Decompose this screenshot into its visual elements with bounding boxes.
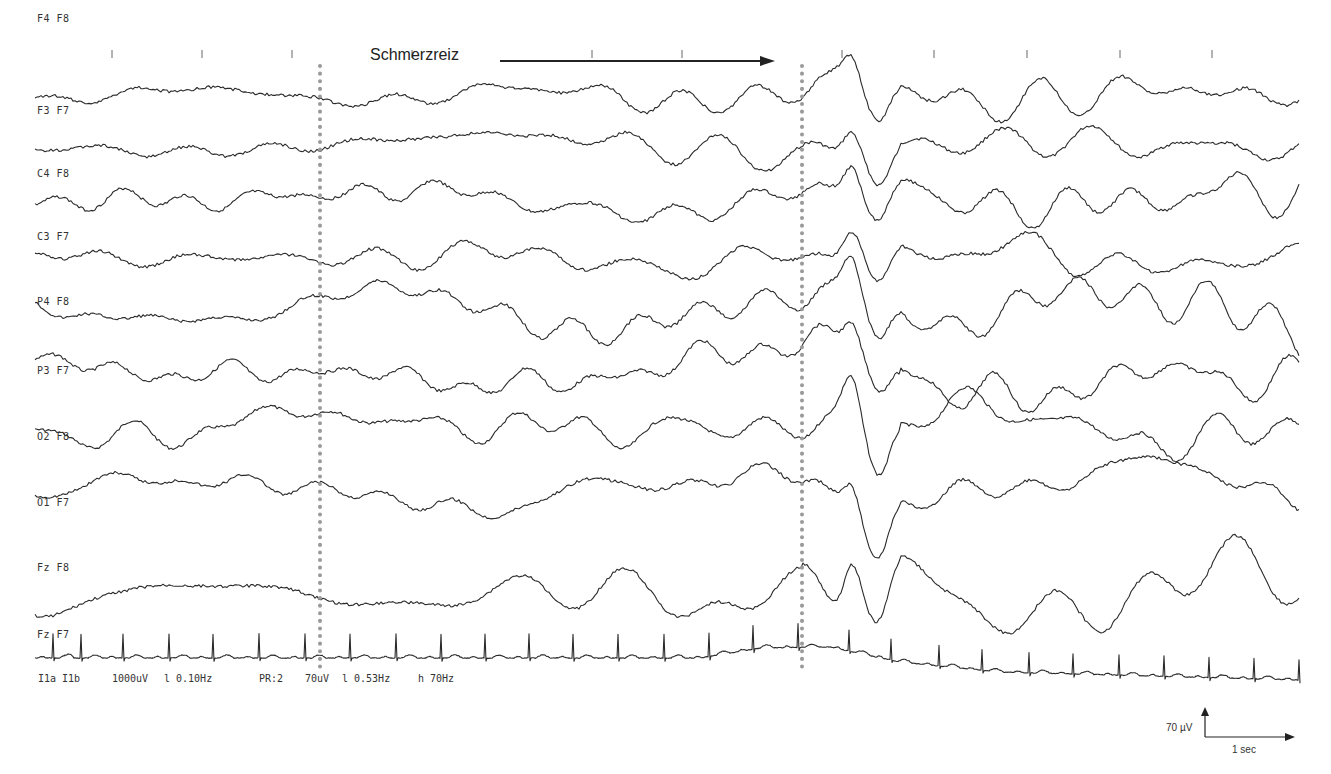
- eeg-trace: [35, 166, 1299, 228]
- eeg-recording: F4 F8F3 F7C4 F8C3 F7P4 F8P3 F7O2 F8O1 F7…: [0, 0, 1331, 774]
- arrow-up-icon: [1201, 707, 1209, 716]
- stimulus-markers: [320, 66, 802, 670]
- channel-label: F3 F7: [37, 105, 70, 116]
- eeg-high-filter: h 70Hz: [418, 673, 454, 684]
- channel-label: Fz F8: [37, 562, 70, 573]
- stimulus-label: Schmerzreiz: [370, 46, 459, 63]
- eeg-trace: [35, 456, 1299, 558]
- amplitude-label: 70 µV: [1166, 722, 1193, 733]
- channel-label: P4 F8: [37, 296, 70, 307]
- eeg-trace: [35, 256, 1299, 355]
- channel-label: O1 F7: [37, 497, 70, 508]
- time-label: 1 sec: [1232, 744, 1256, 755]
- program: PR:2: [259, 673, 283, 684]
- recording-settings: I1a I1b 1000uV l 0.10Hz PR:2 70uV l 0.53…: [38, 673, 454, 684]
- eeg-low-filter: l 0.53Hz: [342, 673, 390, 684]
- stimulus-annotation: Schmerzreiz: [370, 46, 775, 66]
- stimulus-arrow-head-icon: [760, 56, 775, 66]
- time-ticks: [112, 50, 1212, 58]
- eeg-trace: [35, 55, 1299, 124]
- eeg-trace: [35, 322, 1299, 413]
- eeg-trace: [35, 375, 1299, 475]
- ecg-channel: I1a I1b: [38, 673, 80, 684]
- channel-label: Fz F7: [37, 629, 70, 640]
- channel-label: C4 F8: [37, 168, 70, 179]
- arrow-right-icon: [1285, 733, 1295, 741]
- eeg-trace: [35, 126, 1299, 186]
- channel-label: C3 F7: [37, 231, 70, 242]
- ecg-trace: [35, 624, 1300, 684]
- scale-bar: 70 µV 1 sec: [1166, 707, 1295, 755]
- eeg-traces: [35, 55, 1300, 684]
- ecg-low-filter: l 0.10Hz: [164, 673, 212, 684]
- channel-label: O2 F8: [37, 431, 70, 442]
- channel-label: F4 F8: [37, 13, 70, 24]
- eeg-trace: [35, 534, 1299, 634]
- ecg-sensitivity: 1000uV: [112, 673, 148, 684]
- channel-labels: F4 F8F3 F7C4 F8C3 F7P4 F8P3 F7O2 F8O1 F7…: [37, 13, 70, 640]
- eeg-sensitivity: 70uV: [305, 673, 329, 684]
- eeg-trace: [35, 232, 1299, 282]
- channel-label: P3 F7: [37, 365, 70, 376]
